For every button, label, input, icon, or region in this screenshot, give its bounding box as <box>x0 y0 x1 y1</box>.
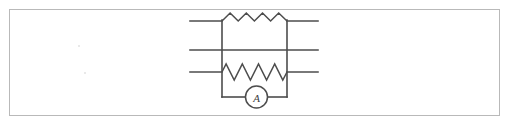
top-resistor-symbol <box>222 13 287 21</box>
ammeter-label: A <box>252 92 260 104</box>
figure-root: A <box>0 0 510 124</box>
circuit-diagram: A <box>0 0 510 124</box>
bottom-resistor-symbol <box>222 64 287 80</box>
